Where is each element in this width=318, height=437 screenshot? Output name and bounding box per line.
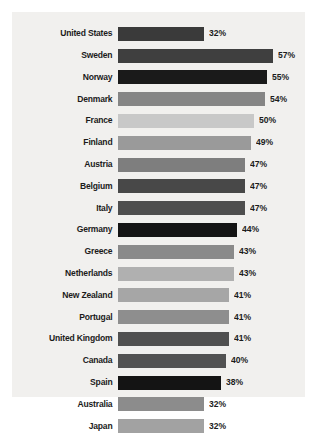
bar-zone: 41% — [118, 285, 305, 307]
bar-value-label: 43% — [239, 247, 256, 256]
bar-value-label: 32% — [209, 29, 226, 38]
category-label: Canada — [19, 356, 118, 365]
category-label: Denmark — [19, 95, 118, 104]
bar-value-label: 40% — [231, 356, 248, 365]
chart-row: Spain38% — [12, 372, 305, 394]
chart-row: Germany44% — [12, 219, 305, 241]
bar-zone: 32% — [118, 394, 305, 416]
bar — [118, 288, 229, 302]
category-label: Norway — [19, 73, 118, 82]
chart-row: Netherlands43% — [12, 263, 305, 285]
bar-value-label: 54% — [270, 95, 287, 104]
category-label: France — [19, 116, 118, 125]
chart-row: Japan32% — [12, 415, 305, 437]
bar-chart: United States32%Sweden57%Norway55%Denmar… — [12, 23, 305, 437]
category-label: Greece — [19, 247, 118, 256]
bar-zone: 32% — [118, 23, 305, 45]
bar-value-label: 47% — [250, 204, 267, 213]
bar — [118, 179, 245, 193]
bar-zone: 41% — [118, 306, 305, 328]
category-label: Sweden — [19, 51, 118, 60]
bar-value-label: 38% — [226, 378, 243, 387]
category-label: Portugal — [19, 313, 118, 322]
chart-row: Belgium47% — [12, 176, 305, 198]
bar-value-label: 50% — [259, 116, 276, 125]
category-label: Spain — [19, 378, 118, 387]
category-label: Austria — [19, 160, 118, 169]
chart-row: Finland49% — [12, 132, 305, 154]
bar-zone: 32% — [118, 415, 305, 437]
bar-value-label: 55% — [272, 73, 289, 82]
bar-value-label: 43% — [239, 269, 256, 278]
bar — [118, 245, 234, 259]
bar-zone: 57% — [118, 45, 305, 67]
bar-zone: 47% — [118, 197, 305, 219]
bar — [118, 376, 221, 390]
chart-row: France50% — [12, 110, 305, 132]
category-label: Japan — [19, 422, 118, 431]
bar-zone: 49% — [118, 132, 305, 154]
bar-zone: 47% — [118, 176, 305, 198]
bar — [118, 419, 204, 433]
category-label: United Kingdom — [19, 334, 118, 343]
category-label: Belgium — [19, 182, 118, 191]
chart-row: New Zealand41% — [12, 285, 305, 307]
bar — [118, 267, 234, 281]
bar — [118, 158, 245, 172]
chart-row: Austria47% — [12, 154, 305, 176]
category-label: Finland — [19, 138, 118, 147]
bar-value-label: 47% — [250, 160, 267, 169]
category-label: Italy — [19, 204, 118, 213]
bar-value-label: 57% — [278, 51, 295, 60]
bar — [118, 354, 226, 368]
chart-row: Sweden57% — [12, 45, 305, 67]
category-label: New Zealand — [19, 291, 118, 300]
chart-row: United Kingdom41% — [12, 328, 305, 350]
bar — [118, 136, 251, 150]
bar — [118, 332, 229, 346]
category-label: Netherlands — [19, 269, 118, 278]
chart-row: Norway55% — [12, 67, 305, 89]
bar-value-label: 44% — [242, 225, 259, 234]
bar-zone: 43% — [118, 263, 305, 285]
bar — [118, 27, 204, 41]
bar — [118, 70, 267, 84]
chart-row: Greece43% — [12, 241, 305, 263]
bar-zone: 44% — [118, 219, 305, 241]
bar-value-label: 47% — [250, 182, 267, 191]
bar-value-label: 32% — [209, 400, 226, 409]
bar-zone: 43% — [118, 241, 305, 263]
bar-value-label: 32% — [209, 422, 226, 431]
category-label: United States — [19, 29, 118, 38]
chart-row: Canada40% — [12, 350, 305, 372]
bar-zone: 41% — [118, 328, 305, 350]
bar — [118, 201, 245, 215]
bar — [118, 310, 229, 324]
chart-row: United States32% — [12, 23, 305, 45]
bar-zone: 50% — [118, 110, 305, 132]
bar — [118, 223, 237, 237]
bar — [118, 114, 254, 128]
chart-row: Australia32% — [12, 394, 305, 416]
bar-value-label: 41% — [234, 291, 251, 300]
bar-zone: 38% — [118, 372, 305, 394]
chart-row: Italy47% — [12, 197, 305, 219]
chart-row: Portugal41% — [12, 306, 305, 328]
bar — [118, 92, 265, 106]
bar-zone: 54% — [118, 88, 305, 110]
chart-panel: United States32%Sweden57%Norway55%Denmar… — [12, 12, 305, 397]
bar-zone: 47% — [118, 154, 305, 176]
category-label: Germany — [19, 225, 118, 234]
chart-row: Denmark54% — [12, 88, 305, 110]
bar-value-label: 41% — [234, 313, 251, 322]
bar-value-label: 49% — [256, 138, 273, 147]
bar-zone: 55% — [118, 67, 305, 89]
bar — [118, 397, 204, 411]
bar-zone: 40% — [118, 350, 305, 372]
bar — [118, 49, 273, 63]
bar-value-label: 41% — [234, 334, 251, 343]
category-label: Australia — [19, 400, 118, 409]
